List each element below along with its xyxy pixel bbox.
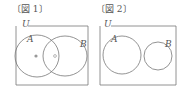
set-a-label-2: A (111, 35, 118, 44)
set-b-label-2: B (165, 40, 172, 49)
set-a-label-1: A (27, 35, 34, 44)
figure-1 (15, 26, 88, 85)
universe-label-1: U (22, 20, 30, 29)
venn-diagrams (0, 0, 178, 91)
set-a-circle-2 (103, 36, 141, 74)
universe-label-2: U (104, 20, 112, 29)
filled-point-icon (34, 54, 37, 57)
hollow-point-icon (54, 55, 57, 58)
set-b-label-1: B (80, 40, 87, 49)
